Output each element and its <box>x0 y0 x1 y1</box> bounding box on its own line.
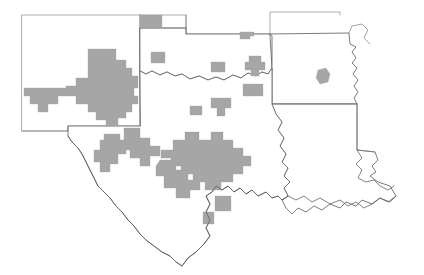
map-container <box>0 0 424 275</box>
shaded-region-tx-north-small <box>190 106 202 115</box>
shaded-region-tx-panhandle-square <box>151 52 165 63</box>
shaded-region-tx-south-county-a <box>215 196 231 211</box>
state-outline-arkansas <box>270 33 358 104</box>
shaded-region-ok-panhandle-square <box>140 15 162 28</box>
state-border-arkansas-northeast <box>349 24 370 44</box>
shaded-region-ok-south-block <box>243 84 263 96</box>
shaded-region-ok-west-small <box>211 62 225 72</box>
state-outlines-layer <box>22 12 396 266</box>
state-border-mississippi-river <box>357 104 375 152</box>
map-svg <box>0 0 424 275</box>
